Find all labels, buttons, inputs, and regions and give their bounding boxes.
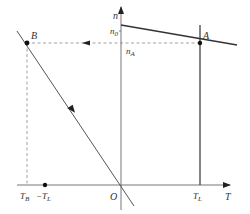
diagram-canvas: n T O A B n0 nA TB −TL TL [0,0,250,214]
arrow-left-icon [82,41,90,46]
label-origin: O [110,191,117,202]
label-t-axis: T [225,191,232,202]
label-b: B [31,30,37,41]
label-n0: n0 [110,26,119,38]
point-b [25,41,30,46]
label-n-axis: n [113,10,118,21]
line-through-a [121,25,237,45]
label-neg-tl: −TL [36,191,51,203]
label-tl: TL [193,191,202,203]
diagonal-line [17,31,134,206]
label-a: A [202,30,210,41]
point-neg-tl [43,183,47,187]
label-tb: TB [20,191,30,203]
label-na: nA [126,46,136,58]
point-a [198,41,202,45]
